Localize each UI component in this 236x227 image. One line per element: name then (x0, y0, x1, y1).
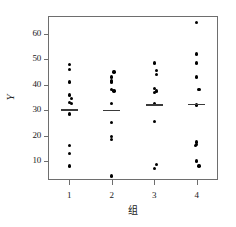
y-tick-label: 60 (14, 29, 41, 38)
x-tick-label: 4 (185, 191, 209, 200)
y-tick-mark (44, 34, 48, 35)
data-point (68, 93, 71, 96)
y-tick-label: 10 (14, 156, 41, 165)
y-tick-label: 30 (14, 105, 41, 114)
y-tick-mark (44, 110, 48, 111)
data-point (68, 68, 71, 71)
data-point (153, 61, 156, 64)
data-point (153, 91, 156, 94)
x-axis-label: 组 (113, 206, 153, 216)
y-tick-mark (44, 136, 48, 137)
x-tick-mark (154, 180, 155, 185)
x-tick-mark (112, 180, 113, 185)
y-tick-mark (44, 161, 48, 162)
data-point (112, 70, 115, 73)
x-tick-label: 3 (142, 191, 166, 200)
data-point (68, 152, 71, 155)
x-tick-mark (197, 180, 198, 185)
data-point (197, 164, 200, 167)
group-mean-line (61, 109, 78, 110)
data-point (68, 63, 71, 66)
y-tick-mark (44, 59, 48, 60)
y-tick-label: 20 (14, 131, 41, 140)
x-tick-mark (69, 180, 70, 185)
data-point (68, 80, 71, 83)
data-point (112, 89, 115, 92)
group-mean-line (146, 104, 163, 105)
scatter-plot-figure: 102030405060 1234 Y 组 (0, 0, 236, 227)
plot-area-frame (48, 16, 218, 180)
y-tick-label: 50 (14, 54, 41, 63)
y-tick-label: 40 (14, 80, 41, 89)
group-mean-line (103, 110, 120, 111)
data-point (68, 164, 71, 167)
x-tick-label: 2 (100, 191, 124, 200)
y-tick-mark (44, 85, 48, 86)
x-tick-label: 1 (57, 191, 81, 200)
y-axis-label: Y (5, 90, 16, 106)
data-point (68, 112, 71, 115)
group-mean-line (188, 104, 205, 105)
